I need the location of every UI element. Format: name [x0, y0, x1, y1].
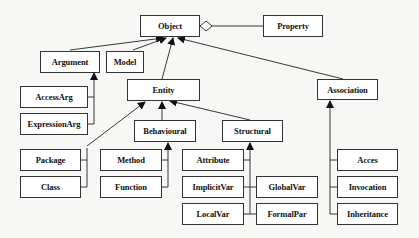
node-local-var: LocalVar	[182, 203, 244, 225]
node-model: Model	[106, 51, 144, 73]
node-acces: Acces	[337, 149, 398, 171]
node-package: Package	[20, 149, 81, 171]
node-inheritance: Inheritance	[337, 203, 398, 225]
node-formal-par: FormalPar	[256, 203, 318, 225]
node-argument: Argument	[40, 51, 100, 73]
node-association: Association	[317, 79, 378, 100]
node-entity: Entity	[127, 79, 200, 101]
node-invocation: Invocation	[337, 176, 398, 198]
node-implicit-var: ImplicitVar	[182, 176, 244, 198]
node-expression-arg: ExpressionArg	[20, 113, 88, 135]
node-attribute: Attribute	[182, 149, 244, 171]
node-global-var: GlobalVar	[256, 176, 318, 198]
aggregation-diamond-icon	[200, 21, 212, 31]
node-structural: Structural	[222, 120, 283, 142]
node-property: Property	[263, 15, 323, 37]
node-access-arg: AccessArg	[20, 86, 88, 108]
node-method: Method	[100, 149, 162, 171]
node-behavioural: Behavioural	[134, 120, 196, 142]
node-class: Class	[20, 176, 81, 198]
node-function: Function	[100, 176, 162, 198]
node-object: Object	[140, 15, 200, 37]
